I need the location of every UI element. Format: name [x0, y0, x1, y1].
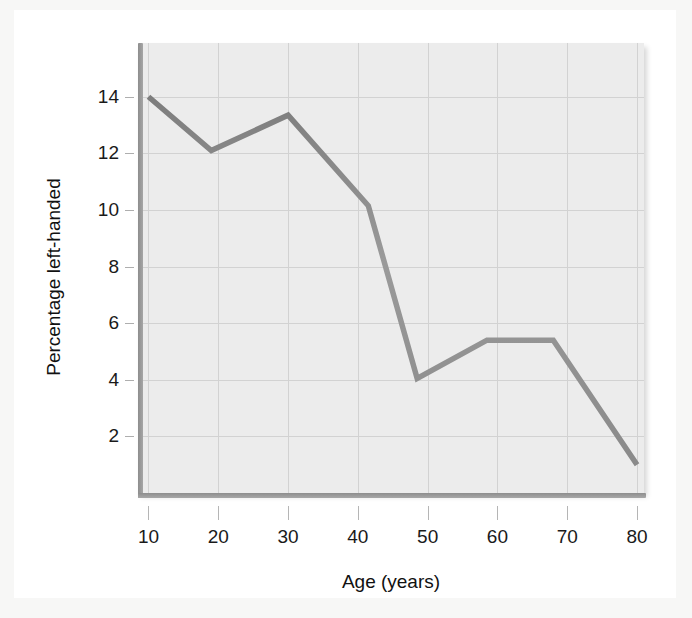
- y-tick-label: 14: [43, 87, 119, 106]
- x-tick-label: 70: [527, 527, 607, 546]
- x-tick-mark: [358, 506, 359, 520]
- x-tick-label: 20: [178, 527, 258, 546]
- y-tick-mark: [125, 153, 134, 154]
- figure-page-panel: 2468101214 1020304050607080 Age (years) …: [14, 10, 676, 598]
- x-tick-label: 40: [318, 527, 398, 546]
- x-tick-mark: [637, 506, 638, 520]
- y-tick-mark: [125, 210, 134, 211]
- data-series-line: [138, 43, 644, 493]
- x-axis-spine: [138, 493, 646, 498]
- x-tick-mark: [497, 506, 498, 520]
- figure-canvas: 2468101214 1020304050607080 Age (years) …: [0, 0, 692, 618]
- y-tick-mark: [125, 323, 134, 324]
- y-tick-label: 12: [43, 143, 119, 162]
- x-tick-mark: [428, 506, 429, 520]
- y-tick-mark: [125, 436, 134, 437]
- x-tick-label: 10: [108, 527, 188, 546]
- x-tick-mark: [567, 506, 568, 520]
- y-tick-mark: [125, 97, 134, 98]
- x-tick-label: 30: [248, 527, 328, 546]
- x-tick-label: 80: [597, 527, 677, 546]
- y-tick-mark: [125, 267, 134, 268]
- x-tick-mark: [148, 506, 149, 520]
- x-tick-mark: [288, 506, 289, 520]
- x-tick-mark: [218, 506, 219, 520]
- y-tick-mark: [125, 380, 134, 381]
- y-tick-label: 2: [43, 426, 119, 445]
- x-tick-label: 60: [457, 527, 537, 546]
- x-axis-title: Age (years): [138, 571, 644, 593]
- y-axis-title: Percentage left-handed: [43, 177, 65, 377]
- x-tick-label: 50: [388, 527, 468, 546]
